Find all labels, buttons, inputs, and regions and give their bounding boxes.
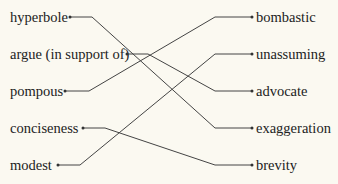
dot-icon bbox=[69, 16, 72, 19]
connector-lines bbox=[0, 0, 338, 184]
dot-icon bbox=[251, 90, 254, 93]
connector-argue-advocate bbox=[127, 54, 252, 91]
dot-icon bbox=[251, 16, 254, 19]
dot-icon bbox=[251, 53, 254, 56]
dot-icon bbox=[82, 127, 85, 130]
connector-modest-unassuming bbox=[58, 54, 252, 165]
connector-hyperbole-exaggeration bbox=[70, 17, 252, 128]
dot-icon bbox=[251, 127, 254, 130]
dot-icon bbox=[251, 164, 254, 167]
dot-icon bbox=[64, 90, 67, 93]
dot-icon bbox=[57, 164, 60, 167]
connector-conciseness-brevity bbox=[83, 128, 252, 165]
dot-icon bbox=[126, 53, 129, 56]
